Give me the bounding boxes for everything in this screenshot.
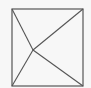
segment-top-left-to-point <box>12 9 33 50</box>
segment-bottom-left-to-point <box>12 50 33 86</box>
geometry-diagram <box>0 0 91 88</box>
segment-bottom-right-to-point <box>33 50 83 86</box>
segment-top-right-to-point <box>33 9 83 50</box>
square <box>12 9 83 86</box>
